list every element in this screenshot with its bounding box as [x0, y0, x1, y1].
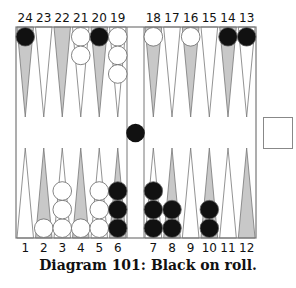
- point-label: 1: [21, 241, 29, 255]
- black-checker[interactable]: [219, 28, 238, 47]
- point-label: 2: [40, 241, 48, 255]
- point-label: 14: [220, 11, 235, 25]
- point-9[interactable]: [182, 148, 199, 238]
- black-checker[interactable]: [144, 200, 163, 219]
- black-checker[interactable]: [144, 182, 163, 201]
- black-checker[interactable]: [90, 28, 109, 47]
- point-1[interactable]: [17, 148, 34, 238]
- black-checker[interactable]: [16, 28, 35, 47]
- point-label: 21: [73, 11, 88, 25]
- point-label: 8: [168, 241, 176, 255]
- point-22[interactable]: [54, 27, 71, 117]
- point-label: 4: [77, 241, 85, 255]
- point-label: 17: [164, 11, 179, 25]
- black-checker[interactable]: [200, 200, 219, 219]
- point-label: 5: [95, 241, 103, 255]
- white-checker[interactable]: [108, 28, 127, 47]
- point-label: 16: [183, 11, 198, 25]
- white-checker[interactable]: [71, 219, 90, 238]
- white-checker[interactable]: [90, 219, 109, 238]
- white-checker[interactable]: [181, 28, 200, 47]
- white-checker[interactable]: [90, 200, 109, 219]
- point-label: 13: [239, 11, 254, 25]
- white-checker[interactable]: [34, 219, 53, 238]
- black-checker[interactable]: [163, 219, 182, 238]
- black-checker[interactable]: [163, 200, 182, 219]
- point-label: 3: [58, 241, 66, 255]
- point-label: 18: [146, 11, 161, 25]
- white-checker[interactable]: [53, 200, 72, 219]
- white-checker[interactable]: [71, 28, 90, 47]
- point-label: 12: [239, 241, 254, 255]
- white-checker[interactable]: [90, 182, 109, 201]
- black-checker[interactable]: [200, 219, 219, 238]
- white-checker[interactable]: [108, 46, 127, 65]
- black-checker[interactable]: [108, 200, 127, 219]
- point-label: 24: [18, 11, 33, 25]
- point-15[interactable]: [201, 27, 218, 117]
- black-checker[interactable]: [144, 219, 163, 238]
- point-label: 9: [187, 241, 195, 255]
- diagram-caption: Diagram 101: Black on roll.: [0, 257, 296, 273]
- white-checker[interactable]: [53, 219, 72, 238]
- black-checker-on-bar[interactable]: [126, 124, 145, 143]
- black-checker[interactable]: [108, 182, 127, 201]
- point-17[interactable]: [164, 27, 181, 117]
- point-11[interactable]: [220, 148, 237, 238]
- point-label: 11: [220, 241, 235, 255]
- white-checker[interactable]: [53, 182, 72, 201]
- point-label: 23: [36, 11, 51, 25]
- black-checker[interactable]: [108, 219, 127, 238]
- point-label: 20: [92, 11, 107, 25]
- white-checker[interactable]: [71, 46, 90, 65]
- backgammon-board: 242322212019181716151413123456789101112: [0, 0, 296, 288]
- point-12[interactable]: [238, 148, 255, 238]
- point-label: 22: [55, 11, 70, 25]
- doubling-cube[interactable]: [263, 117, 293, 149]
- black-checker[interactable]: [237, 28, 256, 47]
- point-label: 6: [114, 241, 122, 255]
- white-checker[interactable]: [108, 65, 127, 84]
- checkers-layer: [16, 28, 256, 238]
- point-label: 7: [150, 241, 158, 255]
- point-23[interactable]: [36, 27, 53, 117]
- white-checker[interactable]: [144, 28, 163, 47]
- point-label: 15: [202, 11, 217, 25]
- point-label: 10: [202, 241, 217, 255]
- point-label: 19: [110, 11, 125, 25]
